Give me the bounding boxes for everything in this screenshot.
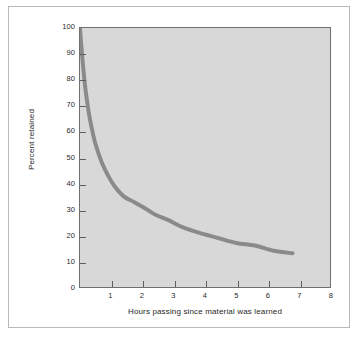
y-axis-tick bbox=[80, 263, 86, 264]
y-axis-tick-label: 20 bbox=[49, 232, 75, 240]
y-axis-tick bbox=[80, 185, 86, 186]
forgetting-curve bbox=[80, 28, 330, 287]
figure-container: Percent retained 0102030405060708090100 … bbox=[0, 0, 360, 338]
y-axis-tick-label: 80 bbox=[49, 75, 75, 83]
x-axis-title: Hours passing since material was learned bbox=[79, 307, 331, 316]
x-axis-tick bbox=[301, 281, 302, 287]
plot-area bbox=[79, 27, 331, 288]
y-axis-tick-label: 90 bbox=[49, 49, 75, 57]
y-axis-tick-label: 30 bbox=[49, 206, 75, 214]
y-axis-tick bbox=[80, 159, 86, 160]
figure-border: Percent retained 0102030405060708090100 … bbox=[8, 6, 350, 328]
x-axis-tick-labels: 12345678 bbox=[79, 292, 331, 302]
y-axis-tick-label: 10 bbox=[49, 258, 75, 266]
x-axis-tick-label: 5 bbox=[227, 292, 247, 300]
y-axis-tick-label: 100 bbox=[49, 23, 75, 31]
x-axis-tick-label: 1 bbox=[101, 292, 121, 300]
y-axis-tick bbox=[80, 132, 86, 133]
x-axis-tick bbox=[143, 281, 144, 287]
x-axis-tick bbox=[238, 281, 239, 287]
y-axis-tick-labels: 0102030405060708090100 bbox=[47, 27, 75, 288]
y-axis-tick bbox=[80, 54, 86, 55]
x-axis-tick bbox=[112, 281, 113, 287]
x-axis-tick-label: 3 bbox=[164, 292, 184, 300]
x-axis-tick-label: 6 bbox=[258, 292, 278, 300]
x-axis-tick-label: 2 bbox=[132, 292, 152, 300]
y-axis-tick-label: 70 bbox=[49, 101, 75, 109]
y-axis-tick-label: 50 bbox=[49, 154, 75, 162]
y-axis-tick-label: 60 bbox=[49, 127, 75, 135]
y-axis-tick-label: 40 bbox=[49, 180, 75, 188]
x-axis-tick bbox=[269, 281, 270, 287]
x-axis-tick bbox=[175, 281, 176, 287]
y-axis-tick bbox=[80, 237, 86, 238]
y-axis-tick bbox=[80, 211, 86, 212]
x-axis-tick-label: 4 bbox=[195, 292, 215, 300]
x-axis-tick-label: 7 bbox=[290, 292, 310, 300]
x-axis-tick-label: 8 bbox=[321, 292, 341, 300]
y-axis-tick bbox=[80, 80, 86, 81]
y-axis-title: Percent retained bbox=[27, 80, 36, 200]
y-axis-tick bbox=[80, 106, 86, 107]
y-axis-tick-label: 0 bbox=[49, 284, 75, 292]
x-axis-tick bbox=[206, 281, 207, 287]
